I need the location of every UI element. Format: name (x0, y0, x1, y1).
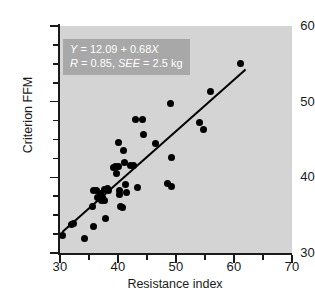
data-point (168, 154, 175, 161)
x-axis-tick-label: 50 (156, 259, 196, 274)
x-axis-tick-minor (204, 255, 206, 260)
stats-r-value: = 0.85, (78, 57, 118, 69)
y-axis-tick-label: 40 (269, 169, 315, 184)
data-point (105, 187, 112, 194)
data-point (90, 223, 97, 230)
equation-x-symbol: X (151, 43, 158, 55)
data-point (115, 163, 122, 170)
x-axis-tick-minor (88, 255, 90, 260)
y-axis-tick-major (50, 101, 58, 103)
x-axis-tick-label: 60 (214, 259, 254, 274)
x-axis-tick-label: 70 (272, 259, 312, 274)
data-point (81, 235, 88, 242)
y-axis-tick-minor (53, 139, 58, 141)
y-axis-tick-label: 50 (269, 94, 315, 109)
x-axis-label: Resistance index (58, 277, 292, 291)
y-axis-tick-minor (53, 82, 58, 84)
y-axis-tick-minor (53, 195, 58, 197)
regression-annotation-box: Y = 12.09 + 0.68X R = 0.85, SEE = 2.5 kg (63, 39, 190, 75)
y-axis-tick-minor (53, 63, 58, 65)
y-axis-tick-minor (53, 158, 58, 160)
annotation-stats-line: R = 0.85, SEE = 2.5 kg (70, 57, 183, 71)
y-axis-tick-minor (53, 44, 58, 46)
x-axis-tick-label: 30 (40, 259, 80, 274)
stats-see-value: = 2.5 kg (140, 57, 183, 69)
y-axis-tick-major (50, 252, 58, 254)
annotation-equation-line: Y = 12.09 + 0.68X (70, 43, 183, 57)
y-axis-tick-minor (53, 233, 58, 235)
x-axis-tick-minor (262, 255, 264, 260)
data-point (120, 147, 127, 154)
y-axis-label: Criterion FFM (21, 35, 35, 195)
data-point (119, 204, 126, 211)
x-axis-tick-minor (146, 255, 148, 260)
stats-r-symbol: R (70, 57, 78, 69)
y-axis-tick-major (50, 177, 58, 179)
y-axis-line (58, 24, 60, 255)
x-axis-tick-label: 40 (98, 259, 138, 274)
scatter-plot-figure: 304050603040506070 Y = 12.09 + 0.68X R =… (0, 0, 315, 298)
y-axis-tick-major (50, 25, 58, 27)
data-point (101, 197, 108, 204)
y-axis-tick-minor (53, 120, 58, 122)
data-point (152, 140, 159, 147)
equation-body: = 12.09 + 0.68 (77, 43, 151, 55)
stats-see-symbol: SEE (118, 57, 140, 69)
y-axis-tick-label: 60 (269, 18, 315, 33)
data-point (102, 215, 109, 222)
y-axis-tick-minor (53, 214, 58, 216)
